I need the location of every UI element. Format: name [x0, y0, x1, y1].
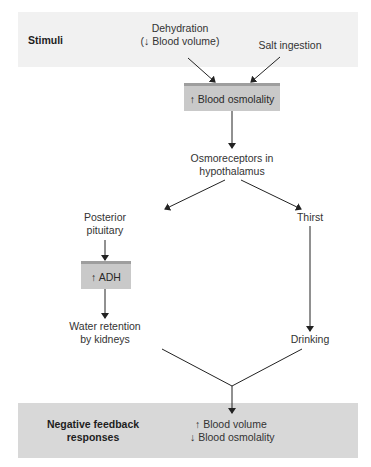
connector-arrows	[0, 0, 371, 467]
